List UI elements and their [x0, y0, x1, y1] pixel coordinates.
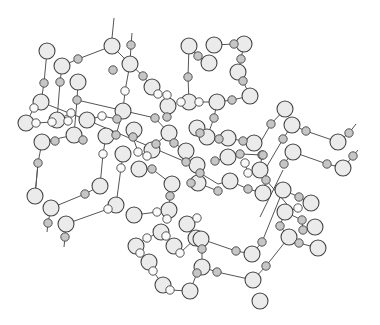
large-atom [220, 149, 236, 165]
small-gray-atom [213, 268, 221, 276]
large-atom [201, 55, 217, 71]
small-gray-atom [239, 137, 247, 145]
small-gray-atom [79, 136, 87, 144]
small-white-atom [134, 148, 142, 156]
small-white-atom [104, 205, 112, 213]
small-gray-atom [215, 135, 223, 143]
small-gray-atom [279, 135, 287, 143]
small-gray-atom [113, 115, 121, 123]
small-white-atom [32, 119, 40, 127]
small-gray-atom [151, 114, 159, 122]
small-gray-atom [228, 96, 236, 104]
small-gray-atom [196, 129, 204, 137]
small-gray-atom [232, 247, 240, 255]
large-atom [104, 38, 120, 54]
small-gray-atom [187, 179, 195, 187]
large-atom [277, 101, 293, 117]
small-white-atom [177, 98, 185, 106]
small-gray-atom [262, 262, 270, 270]
molecule-canvas [0, 0, 380, 325]
small-white-atom [163, 91, 171, 99]
small-white-atom [143, 152, 151, 160]
small-gray-atom [56, 78, 64, 86]
large-atom [275, 182, 291, 198]
large-atom [79, 112, 95, 128]
small-white-atom [195, 98, 203, 106]
large-atom [222, 173, 238, 189]
small-gray-atom [345, 129, 353, 137]
small-white-atom [163, 215, 171, 223]
large-atom [39, 43, 55, 59]
small-white-atom [121, 87, 129, 95]
small-gray-atom [73, 96, 81, 104]
small-gray-atom [323, 160, 331, 168]
small-gray-atom [236, 150, 244, 158]
small-gray-atom [267, 120, 275, 128]
small-gray-atom [51, 137, 59, 145]
small-white-atom [136, 249, 144, 257]
small-gray-atom [193, 269, 201, 277]
large-atom [34, 134, 50, 150]
small-gray-atom [349, 152, 357, 160]
large-atom [178, 143, 194, 159]
atoms-layer [18, 36, 357, 309]
small-gray-atom [81, 190, 89, 198]
small-white-atom [98, 112, 106, 120]
large-atom [206, 37, 222, 53]
small-white-atom [294, 204, 302, 212]
small-gray-atom [44, 219, 52, 227]
small-gray-atom [148, 165, 156, 173]
large-atom [43, 200, 59, 216]
small-white-atom [48, 118, 56, 126]
small-gray-atom [244, 185, 252, 193]
large-atom [310, 240, 326, 256]
large-atom [246, 135, 262, 151]
large-atom [54, 58, 70, 74]
small-gray-atom [280, 160, 288, 168]
large-atom [27, 188, 43, 204]
small-gray-atom [170, 139, 178, 147]
small-white-atom [244, 169, 252, 177]
small-gray-atom [258, 238, 266, 246]
small-gray-atom [34, 159, 42, 167]
large-atom [277, 204, 293, 220]
large-atom [252, 293, 268, 309]
small-white-atom [99, 150, 107, 158]
small-gray-atom [182, 158, 190, 166]
small-white-atom [30, 104, 38, 112]
small-gray-atom [152, 140, 160, 148]
small-gray-atom [276, 222, 284, 230]
large-atom [92, 178, 108, 194]
large-atom [285, 144, 301, 160]
small-gray-atom [196, 169, 204, 177]
small-gray-atom [211, 157, 219, 165]
small-gray-atom [129, 133, 137, 141]
small-white-atom [64, 117, 72, 125]
small-gray-atom [112, 131, 120, 139]
small-white-atom [153, 208, 161, 216]
bond-line [112, 18, 114, 38]
small-white-atom [154, 90, 162, 98]
small-gray-atom [139, 72, 147, 80]
small-white-atom [149, 267, 157, 275]
large-atom [70, 74, 86, 90]
small-gray-atom [109, 66, 117, 74]
large-atom [122, 56, 138, 72]
large-atom [164, 176, 180, 192]
large-atom [335, 160, 351, 176]
small-gray-atom [295, 239, 303, 247]
large-atom [126, 207, 142, 223]
small-gray-atom [239, 77, 247, 85]
small-white-atom [176, 249, 184, 257]
large-atom [160, 98, 176, 114]
small-gray-atom [214, 187, 222, 195]
large-atom [115, 146, 131, 162]
small-white-atom [162, 232, 170, 240]
small-gray-atom [230, 40, 238, 48]
small-gray-atom [259, 151, 267, 159]
large-atom [307, 219, 323, 235]
large-atom [182, 283, 198, 299]
small-gray-atom [295, 193, 303, 201]
molecular-structure-diagram [0, 0, 380, 325]
small-gray-atom [163, 113, 171, 121]
